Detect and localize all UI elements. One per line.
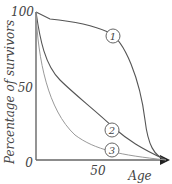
y-tick-50: 50 — [18, 81, 34, 95]
y-axis-label: Percentage of survivors — [3, 20, 17, 165]
svg-text:2: 2 — [108, 125, 115, 136]
svg-text:3: 3 — [109, 145, 115, 156]
curve-1 — [36, 12, 166, 160]
survivorship-chart: 1 2 3 100 50 0 50 Age Percentage of surv… — [0, 0, 172, 184]
y-tick-100: 100 — [11, 5, 34, 19]
svg-text:1: 1 — [110, 31, 116, 42]
curve-3 — [36, 12, 166, 160]
curve-2 — [36, 12, 166, 160]
curve-1-label: 1 — [106, 29, 120, 43]
curve-3-label: 3 — [105, 143, 119, 157]
x-axis-label: Age — [127, 169, 151, 183]
x-tick-50: 50 — [90, 164, 106, 178]
curve-2-label: 2 — [105, 123, 119, 137]
y-tick-0: 0 — [25, 156, 33, 170]
